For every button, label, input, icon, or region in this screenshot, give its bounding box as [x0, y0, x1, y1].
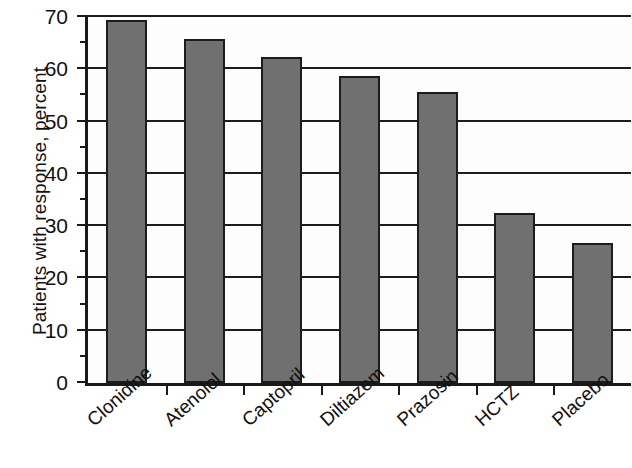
y-axis-tick-labels: 010203040506070	[0, 0, 78, 468]
x-axis-tick	[398, 385, 400, 395]
gridline	[88, 15, 631, 17]
bar	[106, 20, 147, 383]
y-axis-tick-label: 40	[8, 163, 68, 184]
x-axis-tick	[476, 385, 478, 395]
x-axis-tick	[321, 385, 323, 395]
y-axis-major-tick	[77, 67, 88, 69]
y-axis-major-tick	[77, 172, 88, 174]
bar	[572, 243, 613, 383]
y-axis-major-tick	[77, 224, 88, 226]
y-axis-tick-label: 20	[8, 267, 68, 288]
y-axis-tick-label: 10	[8, 320, 68, 341]
y-axis-major-tick	[77, 329, 88, 331]
plot-area	[85, 17, 631, 386]
x-axis-tick	[166, 385, 168, 395]
bar	[261, 57, 302, 383]
y-axis-minor-tick	[80, 355, 88, 357]
y-axis-minor-tick	[80, 41, 88, 43]
y-axis-tick-label: 60	[8, 58, 68, 79]
y-axis-tick-label: 50	[8, 111, 68, 132]
gridline	[88, 67, 631, 69]
y-axis-tick-label: 70	[8, 6, 68, 27]
y-axis-tick-label: 30	[8, 215, 68, 236]
x-axis-tick	[243, 385, 245, 395]
y-axis-major-tick	[77, 120, 88, 122]
y-axis-major-tick	[77, 381, 88, 383]
y-axis-minor-tick	[80, 198, 88, 200]
y-axis-major-tick	[77, 15, 88, 17]
y-axis-minor-tick	[80, 93, 88, 95]
x-axis-tick	[553, 385, 555, 395]
bar-chart-figure: Patients with response, percent 01020304…	[0, 0, 632, 468]
y-axis-minor-tick	[80, 250, 88, 252]
y-axis-tick-label: 0	[8, 372, 68, 393]
bar	[494, 213, 535, 383]
y-axis-minor-tick	[80, 146, 88, 148]
bar	[339, 76, 380, 383]
y-axis-major-tick	[77, 276, 88, 278]
x-axis-category-label: HCTZ	[471, 382, 521, 430]
bar	[417, 92, 458, 383]
bar	[184, 39, 225, 383]
y-axis-minor-tick	[80, 303, 88, 305]
